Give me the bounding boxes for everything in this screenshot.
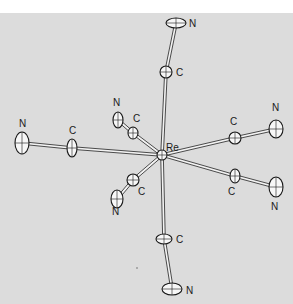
c-n-bond-top [165,23,178,73]
ortep-figure: CNCNCNCNCNCNCNRe [0,0,293,304]
carbon-atom-top [160,66,172,78]
nitrogen-label-upper-left: N [113,97,120,108]
nitrogen-atom-right-upper [269,120,283,138]
re-c-bond-bottom [161,155,166,239]
re-c-bond-right-lower [162,154,236,177]
carbon-atom-left [67,139,77,157]
nitrogen-atom-bottom [162,283,182,295]
carbon-label-bottom: C [176,234,183,245]
carbon-label-upper-left: C [133,113,140,124]
carbon-atom-right-upper [229,132,241,144]
carbon-label-top: C [176,67,183,78]
nitrogen-label-bottom: N [186,285,193,296]
rhenium-label: Re [166,142,179,153]
carbon-label-left: C [69,125,76,136]
carbon-label-right-lower: C [228,186,235,197]
carbon-atom-right-lower [230,169,240,183]
carbon-atom-bottom [156,234,172,244]
nitrogen-atom-right-lower [269,177,283,197]
nitrogen-label-left: N [19,118,26,129]
nitrogen-atom-top [166,18,186,28]
re-c-bond-left [72,147,162,157]
carbon-label-lower-left: C [138,186,145,197]
nitrogen-label-top: N [189,18,196,29]
carbon-label-right-upper: C [230,116,237,127]
nitrogen-label-right-upper: N [272,102,279,113]
speck-mark [136,267,137,268]
carbon-atom-lower-left [127,174,139,186]
molecule-diagram: CNCNCNCNCNCNCNRe [0,0,293,304]
nitrogen-label-lower-left: N [112,206,119,217]
carbon-atom-upper-left [128,127,138,139]
nitrogen-atom-upper-left [113,112,123,128]
c-n-bond-bottom [163,239,174,289]
nitrogen-atom-left [15,132,29,154]
nitrogen-label-right-lower: N [271,201,278,212]
